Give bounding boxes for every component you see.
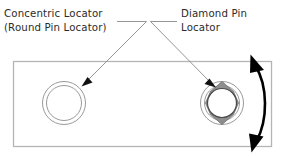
diamond-label-line2: Locator (181, 22, 221, 33)
diamond-pin-bore (208, 89, 237, 118)
diamond-label-line1: Diamond Pin (181, 8, 247, 19)
locator-diagram: Concentric Locator (Round Pin Locator) D… (0, 0, 281, 156)
diagram-canvas: Concentric Locator (Round Pin Locator) D… (0, 0, 281, 156)
concentric-label-line2: (Round Pin Locator) (4, 22, 107, 33)
diamond-locator-graphic (201, 82, 244, 125)
concentric-label-line1: Concentric Locator (4, 8, 103, 19)
label-diamond-pin-locator: Diamond Pin Locator (181, 8, 247, 33)
label-concentric-locator: Concentric Locator (Round Pin Locator) (4, 8, 107, 33)
